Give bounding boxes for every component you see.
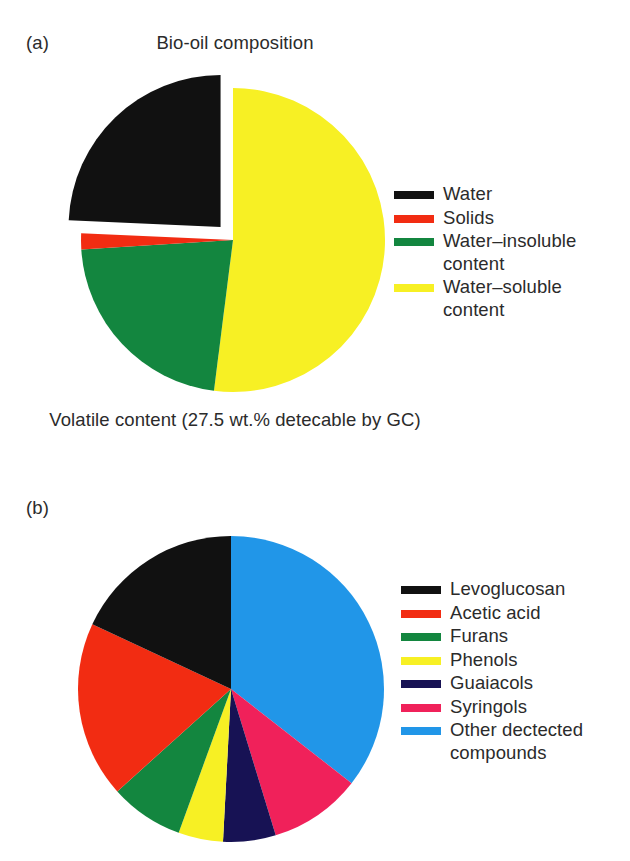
legend-item-label: Solids bbox=[443, 207, 494, 230]
legend-swatch-icon bbox=[401, 704, 441, 712]
legend-panel-a: WaterSolidsWater–insoluble contentWater–… bbox=[394, 183, 576, 322]
legend-item: Levoglucosan bbox=[401, 578, 583, 601]
legend-item: Furans bbox=[401, 625, 583, 648]
legend-item-label: Guaiacols bbox=[450, 672, 533, 695]
legend-item-label: Other dectected compounds bbox=[450, 719, 583, 764]
legend-item-label: Water–soluble content bbox=[443, 276, 562, 321]
legend-item: Water–insoluble content bbox=[394, 230, 576, 275]
legend-swatch-icon bbox=[394, 191, 434, 199]
legend-item: Water bbox=[394, 183, 576, 206]
legend-item-label: Water bbox=[443, 183, 492, 206]
legend-swatch-icon bbox=[401, 657, 441, 665]
panel-b-volatile-content: (b) LevoglucosanAcetic acidFuransPhenols… bbox=[0, 470, 630, 861]
legend-item-label: Syringols bbox=[450, 696, 527, 719]
pie-slice bbox=[81, 240, 233, 391]
legend-item: Guaiacols bbox=[401, 672, 583, 695]
legend-swatch-icon bbox=[394, 238, 434, 246]
legend-item-label: Phenols bbox=[450, 649, 518, 672]
legend-swatch-icon bbox=[401, 586, 441, 594]
legend-swatch-icon bbox=[401, 727, 441, 735]
legend-swatch-icon bbox=[401, 633, 441, 641]
legend-item: Water–soluble content bbox=[394, 276, 576, 321]
legend-item: Solids bbox=[394, 207, 576, 230]
pie-slice bbox=[214, 88, 385, 392]
legend-item-label: Furans bbox=[450, 625, 508, 648]
pie-slice bbox=[69, 75, 221, 227]
legend-item: Acetic acid bbox=[401, 602, 583, 625]
legend-item-label: Levoglucosan bbox=[450, 578, 565, 601]
legend-swatch-icon bbox=[401, 680, 441, 688]
panel-a-caption: Volatile content (27.5 wt.% detecable by… bbox=[0, 408, 470, 431]
legend-item-label: Water–insoluble content bbox=[443, 230, 576, 275]
legend-panel-b: LevoglucosanAcetic acidFuransPhenolsGuai… bbox=[401, 578, 583, 765]
legend-swatch-icon bbox=[394, 215, 434, 223]
legend-item: Other dectected compounds bbox=[401, 719, 583, 764]
legend-item: Phenols bbox=[401, 649, 583, 672]
legend-item: Syringols bbox=[401, 696, 583, 719]
legend-swatch-icon bbox=[401, 610, 441, 618]
legend-item-label: Acetic acid bbox=[450, 602, 541, 625]
panel-a-bio-oil-composition: (a) Bio-oil composition Volatile content… bbox=[0, 0, 630, 470]
legend-swatch-icon bbox=[394, 284, 434, 292]
